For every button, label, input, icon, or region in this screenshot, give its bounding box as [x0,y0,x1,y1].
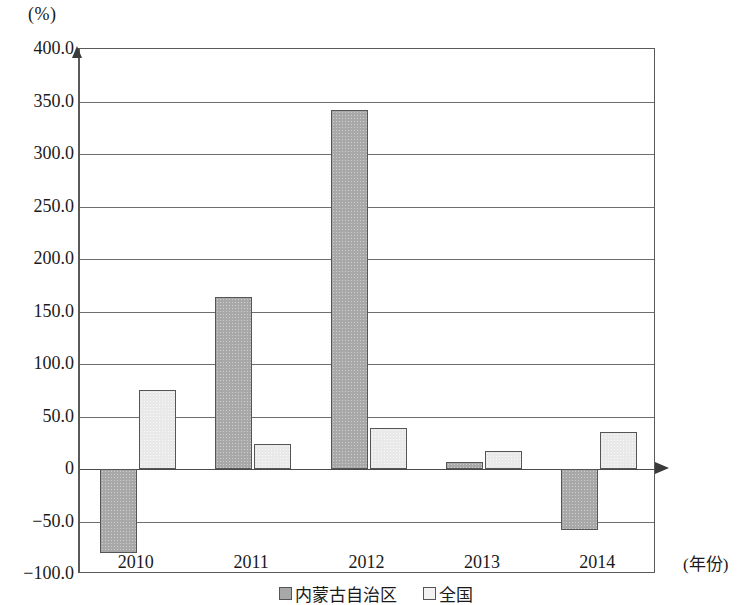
y-axis-tick-label: 0 [2,458,74,479]
y-axis-tick-label: −50.0 [2,510,74,531]
y-axis-tick-label: 300.0 [2,143,74,164]
bar-2011-series-0 [215,297,252,469]
y-axis-arrow-icon [72,46,82,58]
y-axis-tick-label: 50.0 [2,405,74,426]
y-axis-tick-label: 250.0 [2,195,74,216]
x-axis-tick-label-2013: 2013 [437,552,527,573]
bar-chart-figure: (%) 400.0350.0300.0250.0200.0150.0100.05… [0,0,751,605]
legend-item-0: 内蒙古自治区 [279,581,397,605]
chart-legend: 内蒙古自治区全国 [0,581,751,605]
legend-item-1: 全国 [423,581,473,605]
x-axis-arrow-icon [655,462,669,474]
y-axis-tick-labels: 400.0350.0300.0250.0200.0150.0100.050.00… [0,0,74,605]
bar-2013-series-1 [485,451,522,469]
legend-label: 内蒙古自治区 [295,581,397,605]
bar-2010-series-0 [100,469,137,553]
x-axis-title: (年份) [683,550,728,575]
plot-area [78,48,655,573]
y-axis-tick-label: 150.0 [2,300,74,321]
y-axis-tick-label: 350.0 [2,90,74,111]
bar-2014-series-1 [600,432,637,469]
y-axis-tick-label: 200.0 [2,248,74,269]
legend-swatch-icon-0 [279,587,292,600]
y-axis-tick-label: 100.0 [2,353,74,374]
x-axis-tick-label-2014: 2014 [552,552,642,573]
x-axis-tick-label-2010: 2010 [91,552,181,573]
x-axis-tick-label-2011: 2011 [206,552,296,573]
bar-2011-series-1 [254,444,291,469]
bar-2012-series-1 [370,428,407,469]
bar-2012-series-0 [331,110,368,469]
bar-2013-series-0 [446,462,483,469]
gridline [80,102,654,103]
bar-2014-series-0 [561,469,598,530]
y-axis-tick-label: 400.0 [2,38,74,59]
bar-2010-series-1 [139,390,176,469]
legend-swatch-icon-1 [423,587,436,600]
x-axis-tick-label-2012: 2012 [322,552,412,573]
legend-label: 全国 [439,581,473,605]
